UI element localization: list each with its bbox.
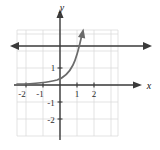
x-axis-arrowhead-icon <box>133 82 142 89</box>
left-arrowhead-icon <box>10 42 19 50</box>
x-axis <box>14 82 142 89</box>
coordinate-plane-svg: -2 -1 1 2 1 -1 -2 x y <box>0 0 160 150</box>
y-axis <box>57 9 64 140</box>
x-tick-label-1: 1 <box>75 89 80 99</box>
x-tick-label-2: 2 <box>92 89 97 99</box>
right-arrowhead-icon <box>143 42 152 50</box>
x-tick-label-neg1: -1 <box>36 89 44 99</box>
horizontal-double-arrow-line <box>10 42 152 50</box>
graph-figure: -2 -1 1 2 1 -1 -2 x y <box>0 0 160 150</box>
y-tick-label-neg1: -1 <box>47 98 55 108</box>
x-tick-label-neg2: -2 <box>18 89 26 99</box>
exponential-curve <box>17 29 85 85</box>
y-tick-label-neg2: -2 <box>47 115 55 125</box>
y-axis-label: y <box>59 2 65 13</box>
y-tick-label-1: 1 <box>51 63 56 73</box>
x-axis-label: x <box>146 80 152 91</box>
